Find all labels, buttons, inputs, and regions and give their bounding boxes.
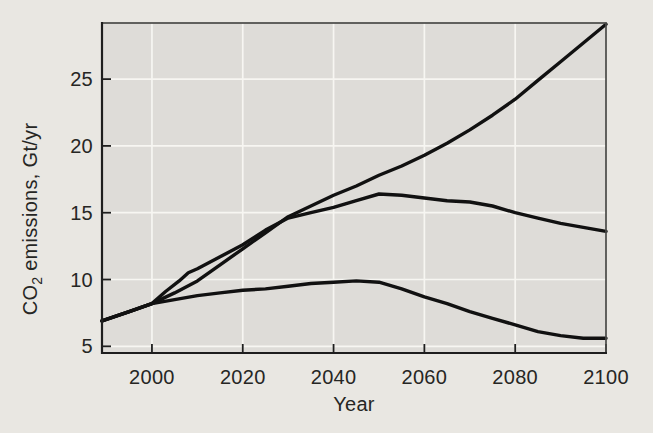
y-tick-label: 15: [70, 202, 93, 224]
co2-emissions-chart: 510152025200020202040206020802100: [0, 0, 653, 433]
x-axis-title: Year: [333, 393, 375, 416]
y-tick-label: 10: [70, 269, 93, 291]
y-tick-label: 20: [70, 135, 93, 157]
y-axis-title-subscript: 2: [29, 277, 45, 285]
x-tick-label: 2040: [311, 366, 357, 388]
y-axis-title-prefix: CO: [19, 285, 41, 316]
y-tick-label: 5: [82, 335, 93, 357]
y-tick-label: 25: [70, 68, 93, 90]
x-tick-label: 2000: [129, 366, 175, 388]
x-tick-label: 2060: [402, 366, 448, 388]
x-tick-label: 2100: [583, 366, 629, 388]
y-axis-title: CO2 emissions, Gt/yr: [19, 123, 42, 316]
y-axis-title-suffix: emissions, Gt/yr: [19, 123, 41, 277]
x-tick-label: 2080: [492, 366, 538, 388]
emissions-scenarios-figure: 510152025200020202040206020802100 CO2 em…: [0, 0, 653, 433]
x-tick-label: 2020: [220, 366, 266, 388]
